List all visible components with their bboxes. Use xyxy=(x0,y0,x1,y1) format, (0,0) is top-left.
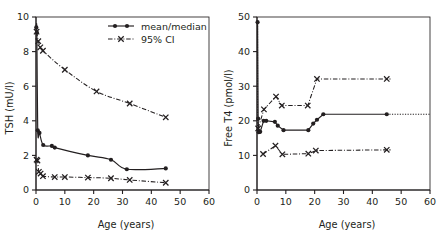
x-tick-label: 20 xyxy=(88,196,100,207)
y-tick-label: 20 xyxy=(238,115,250,126)
data-point-marker xyxy=(276,124,280,128)
y-tick-label: 8 xyxy=(23,46,29,57)
data-point-marker xyxy=(163,115,168,120)
data-point-marker xyxy=(385,112,389,116)
x-tick-label: 60 xyxy=(424,196,436,207)
x-tick-label: 50 xyxy=(174,196,186,207)
data-point-marker xyxy=(273,94,278,99)
freet4-y-axis-title: Free T4 (pmol/l) xyxy=(223,69,234,146)
data-point-marker xyxy=(62,67,67,72)
freet4-y-axis-ticks: 01020304050 xyxy=(238,11,257,195)
tsh-y-axis-title: TSH (mU/l) xyxy=(4,81,15,135)
plot-frame-box xyxy=(36,17,209,190)
x-tick-label: 20 xyxy=(309,196,321,207)
data-point-marker xyxy=(313,148,318,153)
data-point-marker xyxy=(34,25,38,29)
data-point-marker xyxy=(37,131,41,135)
plot-frame-box xyxy=(257,17,430,190)
data-point-marker xyxy=(53,146,57,150)
data-point-marker xyxy=(273,143,278,148)
x-tick-label: 40 xyxy=(145,196,157,207)
series-line-95-ci-lower xyxy=(37,159,166,182)
tsh-series-group xyxy=(34,24,169,186)
data-point-marker xyxy=(279,103,284,108)
y-tick-label: 4 xyxy=(23,115,29,126)
data-point-marker xyxy=(264,119,268,123)
data-point-marker xyxy=(125,167,129,171)
data-point-marker xyxy=(281,128,285,132)
legend-label-1: 95% CI xyxy=(141,34,175,45)
tsh-y-axis-ticks: 0246810 xyxy=(17,11,36,195)
y-tick-label: 2 xyxy=(23,150,29,161)
y-tick-label: 0 xyxy=(244,184,250,195)
data-point-marker xyxy=(306,151,311,156)
data-point-marker xyxy=(315,118,319,122)
tsh-plot-frame xyxy=(36,17,209,190)
data-point-marker xyxy=(127,101,132,106)
data-point-marker xyxy=(109,158,113,162)
tsh-x-axis-title: Age (years) xyxy=(98,219,155,230)
tsh-chart-svg: 0246810 0102030405060 TSH (mU/l) Age (ye… xyxy=(0,0,219,232)
y-tick-label: 30 xyxy=(238,81,250,92)
data-point-marker xyxy=(305,103,310,108)
x-tick-label: 50 xyxy=(395,196,407,207)
y-tick-label: 10 xyxy=(17,11,29,22)
y-tick-label: 40 xyxy=(238,46,250,57)
x-tick-label: 10 xyxy=(59,196,71,207)
freet4-x-axis-title: Age (years) xyxy=(319,219,376,230)
data-point-marker xyxy=(127,177,132,182)
y-tick-label: 50 xyxy=(238,11,250,22)
freet4-plot-frame xyxy=(257,17,430,190)
x-tick-label: 30 xyxy=(337,196,349,207)
data-point-marker xyxy=(256,117,260,121)
data-point-marker xyxy=(273,120,277,124)
freet4-chart-svg: 01020304050 0102030405060 Free T4 (pmol/… xyxy=(219,0,439,232)
data-point-marker xyxy=(255,20,259,24)
y-tick-label: 6 xyxy=(23,81,29,92)
x-tick-label: 60 xyxy=(203,196,215,207)
data-point-marker xyxy=(306,128,310,132)
data-point-marker xyxy=(261,107,266,112)
data-point-marker xyxy=(321,112,325,116)
figure-root: 0246810 0102030405060 TSH (mU/l) Age (ye… xyxy=(0,0,439,232)
data-point-marker xyxy=(260,151,265,156)
freet4-panel: 01020304050 0102030405060 Free T4 (pmol/… xyxy=(219,0,439,232)
x-tick-label: 10 xyxy=(280,196,292,207)
data-point-marker xyxy=(40,48,45,53)
data-point-marker xyxy=(311,121,315,125)
data-point-marker xyxy=(86,153,90,157)
x-tick-label: 40 xyxy=(366,196,378,207)
freet4-x-axis-ticks: 0102030405060 xyxy=(254,190,436,207)
y-tick-label: 10 xyxy=(238,150,250,161)
x-tick-label: 0 xyxy=(254,196,260,207)
legend-label-0: mean/median xyxy=(141,21,207,32)
chart-legend: mean/median95% CI xyxy=(108,21,207,45)
data-point-marker xyxy=(94,89,99,94)
freet4-series-group xyxy=(255,20,389,157)
y-tick-label: 0 xyxy=(23,184,29,195)
legend-marker-0 xyxy=(125,24,129,28)
legend-marker-0 xyxy=(113,24,117,28)
data-point-marker xyxy=(164,166,168,170)
x-tick-label: 0 xyxy=(33,196,39,207)
data-point-marker xyxy=(41,143,45,147)
tsh-panel: 0246810 0102030405060 TSH (mU/l) Age (ye… xyxy=(0,0,219,232)
x-tick-label: 30 xyxy=(116,196,128,207)
tsh-x-axis-ticks: 0102030405060 xyxy=(33,190,215,207)
series-line-95-ci-upper xyxy=(258,79,387,128)
